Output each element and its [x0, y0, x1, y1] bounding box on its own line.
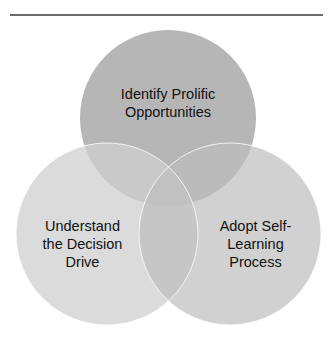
- venn-diagram: [0, 0, 335, 337]
- label-adopt-self-learning: Adopt Self- Learning Process: [208, 217, 303, 271]
- label-understand-decision: Understand the Decision Drive: [30, 217, 135, 271]
- label-identify-opportunities: Identify Prolific Opportunities: [98, 85, 238, 121]
